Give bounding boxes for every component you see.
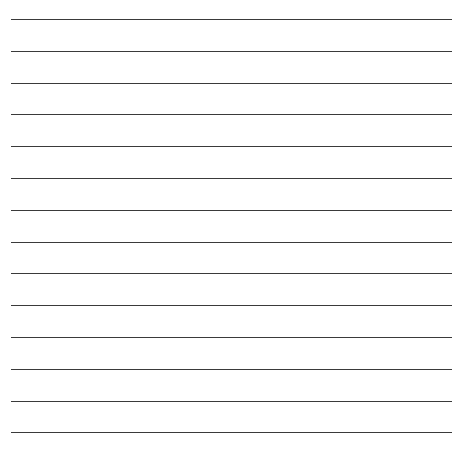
- ruled-line: [11, 178, 452, 179]
- ruled-line: [11, 210, 452, 211]
- ruled-line: [11, 369, 452, 370]
- ruled-line: [11, 273, 452, 274]
- ruled-line: [11, 19, 452, 20]
- ruled-line: [11, 305, 452, 306]
- ruled-line: [11, 51, 452, 52]
- ruled-line: [11, 432, 452, 433]
- ruled-line: [11, 242, 452, 243]
- ruled-line: [11, 146, 452, 147]
- ruled-line: [11, 114, 452, 115]
- ruled-line: [11, 337, 452, 338]
- ruled-line: [11, 83, 452, 84]
- lined-paper: [0, 0, 465, 461]
- ruled-line: [11, 401, 452, 402]
